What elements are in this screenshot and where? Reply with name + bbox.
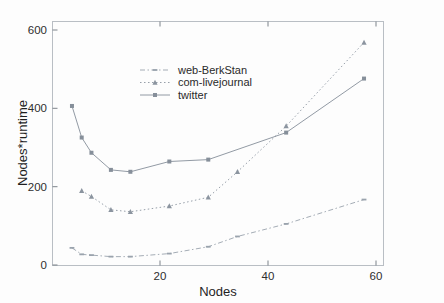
legend-label-twitter: twitter bbox=[178, 89, 208, 101]
data-point bbox=[167, 203, 172, 208]
data-point bbox=[206, 246, 211, 248]
series-line bbox=[72, 200, 364, 257]
x-tick-label-20: 20 bbox=[154, 270, 167, 282]
data-point bbox=[235, 169, 240, 174]
data-point bbox=[362, 77, 366, 81]
x-axis-ticks bbox=[160, 22, 376, 266]
data-point bbox=[70, 247, 75, 249]
series-twitter bbox=[70, 77, 366, 174]
y-tick-label-200: 200 bbox=[28, 181, 47, 193]
data-point bbox=[128, 170, 132, 174]
data-point bbox=[362, 199, 367, 201]
data-point bbox=[206, 158, 210, 162]
data-point bbox=[284, 123, 289, 128]
plot-frame bbox=[53, 22, 384, 266]
data-point bbox=[108, 207, 113, 212]
legend-marker bbox=[153, 93, 157, 97]
y-tick-label-400: 400 bbox=[28, 102, 47, 114]
data-point bbox=[284, 223, 289, 225]
series-web-berkstan bbox=[70, 199, 367, 258]
data-point bbox=[109, 256, 114, 258]
x-axis-title: Nodes bbox=[199, 284, 237, 299]
data-point bbox=[109, 168, 113, 172]
chart-plot-area: 600 400 200 0 20 40 60 Nodes Nodes*runti… bbox=[0, 0, 444, 303]
y-axis-ticks bbox=[53, 30, 58, 265]
data-point bbox=[70, 104, 74, 108]
legend-marker bbox=[153, 69, 158, 71]
data-point bbox=[79, 188, 84, 193]
data-point bbox=[89, 254, 94, 256]
data-point bbox=[284, 131, 288, 135]
x-tick-label-60: 60 bbox=[370, 270, 383, 282]
data-point bbox=[80, 136, 84, 140]
y-tick-label-0: 0 bbox=[41, 259, 47, 271]
x-tick-label-40: 40 bbox=[262, 270, 275, 282]
y-axis-title: Nodes*runtime bbox=[15, 100, 30, 186]
data-point bbox=[89, 151, 93, 155]
data-point bbox=[235, 236, 240, 238]
series-line bbox=[72, 79, 364, 172]
data-point bbox=[89, 194, 94, 199]
chart-legend: web-BerkStancom-livejournaltwitter bbox=[140, 64, 252, 101]
data-point bbox=[361, 40, 366, 45]
chart-container: 600 400 200 0 20 40 60 Nodes Nodes*runti… bbox=[0, 0, 444, 303]
data-point bbox=[167, 160, 171, 164]
legend-label-web-berkstan: web-BerkStan bbox=[177, 64, 247, 76]
data-point bbox=[128, 256, 133, 258]
data-point bbox=[167, 253, 172, 255]
y-tick-label-600: 600 bbox=[28, 24, 47, 36]
data-point bbox=[79, 253, 84, 255]
legend-label-com-livejournal: com-livejournal bbox=[178, 76, 252, 88]
